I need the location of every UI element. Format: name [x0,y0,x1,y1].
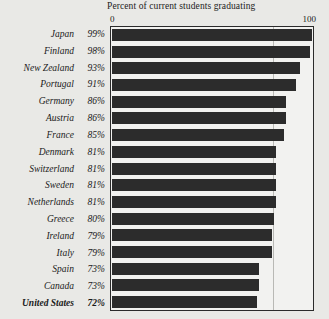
plot-area [110,26,314,311]
category-label-row: Sweden 81% [0,179,105,191]
category-label-row: Spain 73% [0,263,105,275]
category-value: 79% [79,247,105,259]
category-value: 86% [79,95,105,107]
bar-row [111,279,313,291]
bar-row [111,296,313,308]
category-labels-column: Japan 99% Finland 98% New Zealand 93% Po… [0,26,105,311]
category-value: 91% [79,78,105,90]
category-name: Switzerland [29,163,74,175]
bar-row [111,62,313,74]
category-label-row: Finland 98% [0,45,105,57]
category-label-row: Greece 80% [0,213,105,225]
category-name: Finland [44,45,74,57]
bar-row [111,263,313,275]
category-name: Japan [51,28,74,40]
bar [112,79,296,91]
bar-row [111,246,313,258]
category-value: 73% [79,263,105,275]
bar [112,296,257,308]
bar [112,279,259,291]
category-value: 81% [79,179,105,191]
bar-row [111,213,313,225]
category-name: Spain [52,263,74,275]
category-label-row-highlighted: United States 72% [0,297,105,309]
bar-row [111,112,313,124]
bar [112,46,310,58]
bar [112,246,272,258]
bar-row [111,229,313,241]
category-name: France [47,129,74,141]
x-axis-tick-labels: 0 100 [110,14,314,26]
bar-row [111,79,313,91]
category-label-row: Japan 99% [0,28,105,40]
category-label-row: Italy 79% [0,247,105,259]
chart-title: Percent of current students graduating [107,1,255,11]
category-label-row: Ireland 79% [0,230,105,242]
bar-row [111,163,313,175]
category-value: 72% [79,297,105,309]
category-value: 73% [79,280,105,292]
category-name: Portugal [40,78,74,90]
category-label-row: Denmark 81% [0,146,105,158]
bar [112,146,276,158]
category-name: Germany [39,95,74,107]
category-label-row: Portugal 91% [0,78,105,90]
bar [112,263,259,275]
bar-row [111,29,313,41]
category-name: United States [22,297,74,309]
bars-layer [111,27,313,310]
category-value: 81% [79,163,105,175]
category-label-row: Canada 73% [0,280,105,292]
bar [112,112,286,124]
category-label-row: Germany 86% [0,95,105,107]
category-value: 93% [79,62,105,74]
category-value: 86% [79,112,105,124]
x-axis-tick-min: 0 [110,14,115,25]
category-name: Austria [46,112,74,124]
category-label-row: New Zealand 93% [0,62,105,74]
category-name: Netherlands [28,196,74,208]
bar-row [111,146,313,158]
category-value: 79% [79,230,105,242]
category-value: 81% [79,146,105,158]
category-name: Ireland [46,230,74,242]
category-name: New Zealand [24,62,74,74]
category-value: 99% [79,28,105,40]
category-label-row: Austria 86% [0,112,105,124]
bar [112,96,286,108]
category-name: Canada [44,280,74,292]
category-value: 85% [79,129,105,141]
category-name: Greece [47,213,74,225]
bar-row [111,179,313,191]
category-label-row: Switzerland 81% [0,163,105,175]
category-name: Sweden [45,179,74,191]
bar-row [111,196,313,208]
bar [112,129,284,141]
bar-row [111,46,313,58]
bar-row [111,96,313,108]
category-name: Denmark [39,146,74,158]
bar [112,29,312,41]
bar [112,62,300,74]
category-value: 80% [79,213,105,225]
bar-chart-figure: Percent of current students graduating 0… [0,0,329,319]
bar [112,163,276,175]
bar [112,179,276,191]
bar [112,196,276,208]
category-name: Italy [57,247,74,259]
x-axis-tick-max: 100 [303,14,317,25]
category-label-row: France 85% [0,129,105,141]
category-value: 81% [79,196,105,208]
bar [112,213,274,225]
category-value: 98% [79,45,105,57]
bar-row [111,129,313,141]
category-label-row: Netherlands 81% [0,196,105,208]
bar [112,229,272,241]
